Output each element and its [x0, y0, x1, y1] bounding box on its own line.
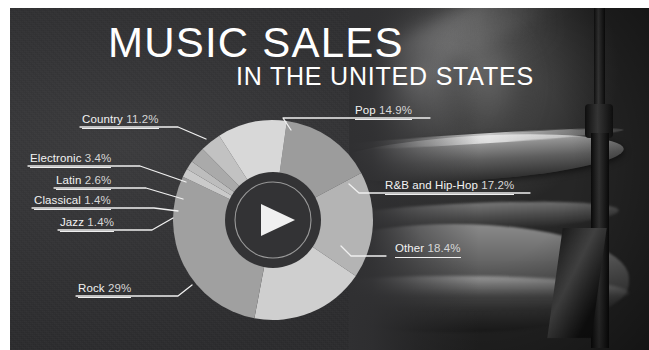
callout-pct-country: 11.2%	[126, 113, 158, 125]
callout-pct-electronic: 3.4%	[85, 152, 112, 164]
callout-underline	[56, 189, 111, 190]
callout-label-rnb: R&B and Hip-Hop 17.2%	[385, 179, 514, 193]
callout-text-electronic: Electronic	[30, 152, 85, 164]
callout-underline	[30, 167, 111, 168]
callout-underline	[82, 128, 159, 129]
callout-label-latin: Latin 2.6%	[56, 174, 111, 188]
callout-label-electronic: Electronic 3.4%	[30, 152, 111, 166]
callout-label-other: Other 18.4%	[395, 242, 461, 256]
callout-label-country: Country 11.2%	[82, 113, 159, 127]
callout-text-classical: Classical	[34, 194, 84, 206]
callout-label-classical: Classical 1.4%	[34, 194, 111, 208]
callout-label-rock: Rock 29%	[78, 282, 131, 296]
callout-underline	[34, 209, 111, 210]
callout-text-pop: Pop	[355, 104, 379, 116]
callout-underline	[60, 231, 114, 232]
poster-canvas: MUSIC SALES IN THE UNITED STATES	[0, 0, 649, 350]
callout-text-rnb: R&B and Hip-Hop	[385, 179, 481, 191]
callout-underline	[78, 297, 131, 298]
callout-pct-rock: 29%	[108, 282, 131, 294]
callout-pct-jazz: 1.4%	[87, 216, 114, 228]
callout-text-rock: Rock	[78, 282, 108, 294]
callout-underline	[395, 257, 461, 258]
callout-underline	[385, 194, 514, 195]
callout-text-other: Other	[395, 242, 428, 254]
callout-pct-other: 18.4%	[428, 242, 461, 254]
callout-text-country: Country	[82, 113, 126, 125]
callout-pct-rnb: 17.2%	[481, 179, 514, 191]
callout-underline	[355, 119, 412, 120]
callout-label-pop: Pop 14.9%	[355, 104, 412, 118]
callout-pct-pop: 14.9%	[379, 104, 412, 116]
infographic-poster: MUSIC SALES IN THE UNITED STATES	[10, 8, 649, 350]
callout-text-latin: Latin	[56, 174, 85, 186]
callout-pct-latin: 2.6%	[85, 174, 112, 186]
callout-label-jazz: Jazz 1.4%	[60, 216, 114, 230]
callout-pct-classical: 1.4%	[84, 194, 111, 206]
callout-text-jazz: Jazz	[60, 216, 87, 228]
